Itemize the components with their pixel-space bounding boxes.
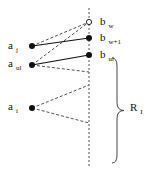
label-b_ul-subscript: ul [109, 55, 114, 63]
label-b_ul-base: b [100, 48, 106, 60]
label-a_i-base: a [8, 100, 13, 112]
label-b_w: bw [100, 16, 114, 30]
node-b_ul [86, 52, 92, 58]
label-a_ul-subscript: ul [16, 64, 21, 72]
node-a_j [29, 43, 35, 49]
dashed-edge-1 [32, 22, 89, 65]
label-a_ul: aul [8, 58, 21, 72]
matching-edge-a_j-b_w+1 [32, 38, 89, 46]
label-b_w-base: b [100, 15, 106, 27]
curly-brace [112, 58, 124, 163]
label-b_w-subscript: w [109, 22, 114, 30]
dashed-edge-4 [32, 108, 89, 123]
dashed-edge-3 [32, 85, 89, 108]
label-region-R_I-subscript: I [140, 108, 142, 116]
label-a_j-base: a [8, 39, 13, 51]
diagram-canvas [0, 0, 161, 178]
dashed-edges [32, 22, 89, 123]
label-a_j-subscript: j [16, 46, 18, 54]
region-brace [112, 58, 124, 163]
label-region-R_I: RI [130, 102, 143, 116]
node-a_ul [29, 62, 35, 68]
label-a_i: ai [8, 101, 18, 115]
node-b_w [86, 19, 91, 24]
label-a_i-subscript: i [16, 107, 18, 115]
nodes [29, 19, 92, 111]
dashed-edge-2 [32, 65, 89, 72]
label-b_w+1-subscript: w+1 [109, 38, 122, 46]
label-b_ul: bul [100, 49, 114, 63]
node-b_w+1 [86, 35, 92, 41]
node-a_i [29, 105, 35, 111]
label-region-R_I-base: R [130, 101, 137, 113]
label-b_w+1: bw+1 [100, 32, 121, 46]
solid-edges [32, 38, 89, 65]
label-b_w+1-base: b [100, 31, 106, 43]
label-a_j: aj [8, 40, 18, 54]
matching-edge-a_ul-b_ul [32, 55, 89, 65]
label-a_ul-base: a [8, 57, 13, 69]
